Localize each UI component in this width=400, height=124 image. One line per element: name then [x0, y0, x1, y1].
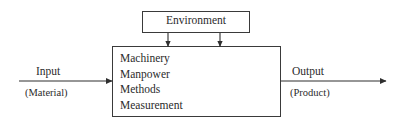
process-factor-manpower: Manpower	[120, 69, 170, 81]
output-label: Output	[292, 66, 324, 78]
input-label: Input	[36, 66, 60, 78]
process-factor-measurement: Measurement	[120, 100, 183, 112]
process-factor-machinery: Machinery	[120, 53, 170, 65]
environment-label: Environment	[142, 15, 250, 27]
process-factor-methods: Methods	[120, 84, 160, 96]
input-sublabel: (Material)	[25, 88, 68, 99]
output-sublabel: (Product)	[290, 88, 330, 99]
diagram-canvas: Environment Machinery Manpower Methods M…	[0, 0, 400, 124]
